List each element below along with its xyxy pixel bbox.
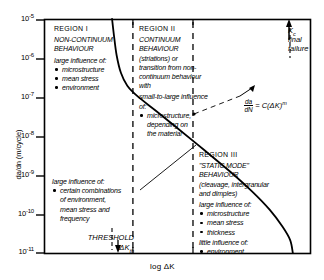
x-axis-title: log ΔK — [150, 262, 175, 271]
kc-symbol-line: Kc — [288, 26, 308, 35]
region-3-influence-header: large influence of: — [199, 200, 307, 209]
region-3-body-line-0: (cleavage, intergranular — [199, 180, 307, 189]
region-2b-bullet-cont-1: mean stress and — [52, 205, 136, 214]
region-2b-text-block: large influence of: certain combinations… — [52, 177, 136, 223]
y-axis-ticks — [36, 20, 44, 253]
region-1-bullet-1: mean stress — [54, 74, 132, 83]
kc-annotation: Kc final failure — [288, 26, 308, 53]
region-3-bullet-list: microstructure mean stress thickness — [199, 209, 307, 237]
region-1-text-block: REGION I NON-CONTINUUM BEHAVIOUR large i… — [54, 24, 132, 92]
region-3-bullet-0: microstructure — [199, 209, 307, 218]
y-tick-label-0: 10-5 — [0, 15, 34, 23]
paris-fraction: da dN — [244, 98, 253, 113]
region-2b-bullet-list: certain combinations of environment, mea… — [52, 186, 136, 223]
region-2-bullet-list: microstructure, depending on the materia… — [139, 111, 225, 139]
region-3-bullet-1: mean stress — [199, 218, 307, 227]
region-1-bullet-0: microstructure — [54, 65, 132, 74]
paris-law-equation: da dN = C(ΔK)m — [244, 98, 287, 113]
region-2b-bullet-cont-0: of environment, — [52, 195, 136, 204]
region-1-title-line-1: NON-CONTINUUM — [54, 35, 132, 44]
region-2-influence-header-line-1: small-to-large influence — [139, 92, 225, 101]
region2b-leader-line — [140, 145, 196, 190]
y-tick-label-6: 10-11 — [0, 248, 34, 256]
region-2-title-line-1: CONTINUUM — [139, 35, 225, 44]
region-3-title-line-1: "STATIC MODE" — [199, 161, 307, 170]
region-3-little-header: little influence of: — [199, 238, 307, 247]
region-2-bullet-cont-0: depending on — [139, 120, 225, 129]
region-3-body-line-1: and dimples) — [199, 189, 307, 198]
region-2b-influence-header: large influence of: — [52, 177, 136, 186]
y-tick-label-1: 10-6 — [0, 54, 34, 62]
region-2-body-line-3: with — [139, 81, 225, 90]
region-2-body-line-1: transition from non- — [139, 63, 225, 72]
region-2-influence-header-line-2: of: — [139, 102, 225, 111]
region-2-header: REGION II — [139, 24, 225, 33]
y-tick-label-2: 10-7 — [0, 93, 34, 101]
region-1-title-line-2: BEHAVIOUR — [54, 44, 132, 53]
region-1-influence-header: large influence of: — [54, 56, 132, 65]
region-2b-bullet-cont-2: frequency — [52, 214, 136, 223]
paris-denominator: dN — [244, 106, 252, 113]
threshold-annotation: THRESHOLD ΔKth — [62, 233, 134, 253]
region-3-text-block: REGION III "STATIC MODE" BEHAVIOUR (clea… — [199, 150, 307, 256]
region-3-little-bullet-list: environment — [199, 247, 307, 256]
y-tick-label-5: 10-10 — [0, 210, 34, 218]
region-2-body-line-0: (striations) or — [139, 54, 225, 63]
region-2-body-line-2: continuum behaviour — [139, 72, 225, 81]
region-2-title-line-2: BEHAVIOUR — [139, 44, 225, 53]
paris-numerator: da — [244, 98, 253, 106]
region-3-bullet-2: thickness — [199, 228, 307, 237]
y-axis-title: da/dn (m/cycle) — [14, 115, 23, 195]
fatigue-crack-growth-chart: 10-5 10-6 10-7 10-8 10-9 10-10 10-11 da/… — [0, 0, 324, 280]
region-2b-bullet-0: certain combinations — [52, 186, 136, 195]
region-1-bullet-2: environment — [54, 83, 132, 92]
region-3-little-bullet-0: environment — [199, 247, 307, 256]
region-1-header: REGION I — [54, 24, 132, 33]
region-2-text-block: REGION II CONTINUUM BEHAVIOUR (striation… — [139, 24, 225, 138]
threshold-symbol-line: ΔKth — [62, 243, 134, 253]
region-3-header: REGION III — [199, 150, 307, 159]
region-3-title-line-2: BEHAVIOUR — [199, 170, 307, 179]
region-2-bullet-0: microstructure, — [139, 111, 225, 120]
paris-right-hand-side: = C(ΔK)m — [255, 101, 287, 110]
region-1-bullet-list: microstructure mean stress environment — [54, 65, 132, 93]
kc-text-line-2: failure — [288, 44, 308, 53]
threshold-text: THRESHOLD — [62, 233, 134, 243]
region-2-bullet-cont-1: the material — [139, 129, 225, 138]
kc-text-line-1: final — [288, 35, 308, 44]
